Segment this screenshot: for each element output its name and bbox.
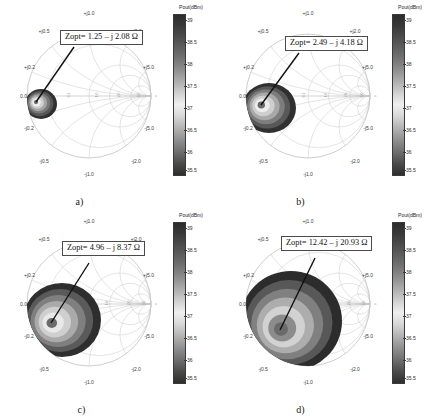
svg-text:-j0.2: -j0.2 [243, 333, 253, 339]
colorbar-tick: 39 [406, 225, 412, 231]
colorbar-tick: 38 [406, 269, 412, 275]
svg-text:-j2.0: -j2.0 [131, 366, 141, 372]
colorbar-tick: 37.5 [187, 83, 197, 89]
colorbar-tick: 36.5 [187, 127, 197, 133]
colorbar-title-d: Pout(dBm) [384, 212, 436, 218]
panel-d: +j1.0 +j0.5 +j0.2 0.0 -j0.2 -j0.5 -j1.0 … [219, 208, 438, 416]
svg-text:-j0.5: -j0.5 [258, 366, 268, 372]
smith-svg-b: +j1.0 +j0.5 +j0.2 0.0 -j0.2 -j0.5 -j1.0 … [233, 6, 383, 178]
svg-text:+j0.2: +j0.2 [24, 272, 35, 278]
colorbar-c: Pout(dBm) 39 38.5 38 37.5 37 36.5 36 35.… [165, 212, 217, 392]
svg-text:0.0: 0.0 [20, 93, 27, 99]
svg-text:+j1.0: +j1.0 [84, 10, 95, 16]
smith-chart-c: +j1.0 +j0.5 +j0.2 0.0 -j0.2 -j0.5 -j1.0 … [14, 214, 164, 386]
svg-text:∞: ∞ [155, 302, 158, 306]
colorbar-tick: 39 [187, 17, 193, 23]
svg-text:2.0: 2.0 [344, 93, 348, 98]
colorbar-tick: 39 [187, 225, 193, 231]
svg-text:+j5.0: +j5.0 [143, 272, 154, 278]
svg-text:5.0: 5.0 [362, 301, 366, 306]
svg-text:∞: ∞ [374, 94, 377, 98]
contour-fill-c [23, 283, 101, 357]
colorbar-tick: 36 [406, 357, 412, 363]
svg-text:+j5.0: +j5.0 [362, 272, 373, 278]
colorbar-tick: 37.5 [187, 291, 197, 297]
svg-text:+j0.2: +j0.2 [24, 64, 35, 70]
colorbar-tick: 38 [187, 269, 193, 275]
svg-text:+j0.2: +j0.2 [243, 272, 254, 278]
colorbar-d: Pout(dBm) 39 38.5 38 37.5 37 36.5 36 35.… [384, 212, 436, 392]
svg-text:-j0.2: -j0.2 [24, 333, 34, 339]
svg-text:0.2: 0.2 [67, 93, 71, 98]
svg-text:2.0: 2.0 [347, 301, 351, 306]
svg-text:-j0.5: -j0.5 [39, 158, 49, 164]
colorbar-tick: 38.5 [406, 247, 416, 253]
svg-text:-j2.0: -j2.0 [131, 158, 141, 164]
svg-text:0.0: 0.0 [239, 93, 246, 99]
colorbar-tick: 37.5 [406, 291, 416, 297]
svg-text:2.0: 2.0 [127, 301, 131, 306]
contour-fill-d [240, 271, 342, 371]
svg-text:-j5.0: -j5.0 [363, 333, 373, 339]
panel-a: +j1.0 +j0.5 +j0.2 0.0 -j0.2 -j0.5 -j1.0 … [0, 0, 219, 208]
svg-text:2.0: 2.0 [117, 93, 121, 98]
svg-text:5.0: 5.0 [360, 93, 364, 98]
colorbar-tick: 35.5 [406, 375, 416, 381]
svg-text:+j5.0: +j5.0 [362, 64, 373, 70]
colorbar-tick: 37 [187, 105, 193, 111]
svg-text:5.0: 5.0 [137, 93, 141, 98]
colorbar-title-c: Pout(dBm) [165, 212, 217, 218]
svg-text:0.0: 0.0 [239, 301, 246, 307]
zopt-annotation-c: Zopt= 4.96 – j 8.37 Ω [62, 241, 145, 256]
colorbar-tick: 35.5 [406, 167, 416, 173]
colorbar-ticks-a: 39 38.5 38 37.5 37 36.5 36 35.5 [185, 14, 217, 174]
svg-text:0.2: 0.2 [302, 93, 306, 98]
smith-chart-b: +j1.0 +j0.5 +j0.2 0.0 -j0.2 -j0.5 -j1.0 … [233, 6, 383, 178]
panel-caption-d: d) [219, 404, 410, 415]
svg-text:-j1.0: -j1.0 [84, 171, 94, 177]
svg-text:-j0.5: -j0.5 [39, 366, 49, 372]
colorbar-tick: 36.5 [187, 335, 197, 341]
svg-text:-j5.0: -j5.0 [144, 333, 154, 339]
svg-text:+j0.5: +j0.5 [258, 28, 269, 34]
svg-text:-j0.2: -j0.2 [24, 125, 34, 131]
svg-text:1.0: 1.0 [324, 93, 328, 98]
figure-grid: +j1.0 +j0.5 +j0.2 0.0 -j0.2 -j0.5 -j1.0 … [0, 0, 438, 416]
svg-text:-j1.0: -j1.0 [303, 171, 313, 177]
colorbar-a: Pout(dBm) 39 38.5 38 37.5 37 36.5 36 35.… [165, 4, 217, 184]
svg-text:+j2.0: +j2.0 [350, 28, 361, 34]
svg-text:+j1.0: +j1.0 [84, 218, 95, 224]
svg-text:+j1.0: +j1.0 [303, 10, 314, 16]
colorbar-tick: 38.5 [187, 247, 197, 253]
colorbar-tick: 36 [406, 149, 412, 155]
zopt-annotation-d: Zopt= 12.42 – j 20.93 Ω [281, 236, 372, 251]
svg-text:1.0: 1.0 [95, 93, 99, 98]
panel-c: +j1.0 +j0.5 +j0.2 0.0 -j0.2 -j0.5 -j1.0 … [0, 208, 219, 416]
svg-text:+j5.0: +j5.0 [143, 64, 154, 70]
zopt-annotation-a: Zopt= 1.25 – j 2.08 Ω [60, 30, 143, 45]
svg-text:+j0.5: +j0.5 [39, 236, 50, 242]
panel-b: +j1.0 +j0.5 +j0.2 0.0 -j0.2 -j0.5 -j1.0 … [219, 0, 438, 208]
svg-text:+j0.2: +j0.2 [243, 64, 254, 70]
colorbar-title-a: Pout(dBm) [165, 4, 217, 10]
svg-text:-j2.0: -j2.0 [350, 158, 360, 164]
colorbar-tick: 37.5 [406, 83, 416, 89]
svg-text:1.0: 1.0 [105, 301, 109, 306]
colorbar-tick: 38.5 [187, 39, 197, 45]
colorbar-ticks-b: 39 38.5 38 37.5 37 36.5 36 35.5 [404, 14, 436, 174]
svg-text:-j2.0: -j2.0 [350, 366, 360, 372]
colorbar-tick: 39 [406, 17, 412, 23]
colorbar-tick: 37 [187, 313, 193, 319]
colorbar-tick: 38 [406, 61, 412, 67]
svg-text:5.0: 5.0 [142, 301, 146, 306]
colorbar-tick: 36.5 [406, 335, 416, 341]
svg-text:-j5.0: -j5.0 [144, 125, 154, 131]
panel-caption-a: a) [0, 196, 189, 207]
svg-text:-j5.0: -j5.0 [363, 125, 373, 131]
colorbar-b: Pout(dBm) 39 38.5 38 37.5 37 36.5 36 35.… [384, 4, 436, 184]
colorbar-tick: 36.5 [406, 127, 416, 133]
colorbar-tick: 38 [187, 61, 193, 67]
svg-text:-j1.0: -j1.0 [84, 379, 94, 385]
svg-text:0.0: 0.0 [20, 301, 27, 307]
colorbar-title-b: Pout(dBm) [384, 4, 436, 10]
